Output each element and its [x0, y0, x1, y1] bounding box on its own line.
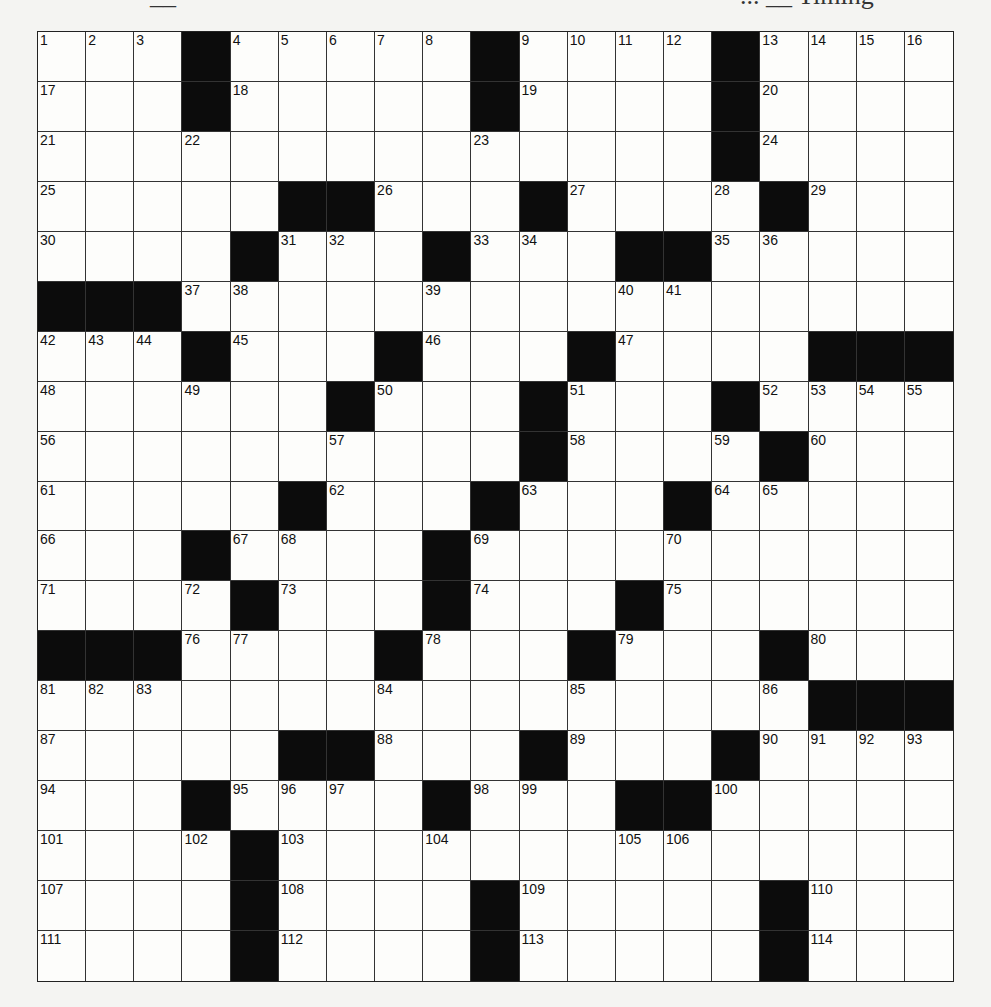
grid-cell[interactable]: [471, 282, 519, 332]
grid-cell[interactable]: [857, 781, 905, 831]
grid-cell[interactable]: [423, 82, 471, 132]
grid-cell[interactable]: [375, 82, 423, 132]
grid-cell[interactable]: [86, 182, 134, 232]
grid-cell[interactable]: 75: [664, 581, 712, 631]
grid-cell[interactable]: [664, 681, 712, 731]
grid-cell[interactable]: 66: [38, 531, 86, 581]
grid-cell[interactable]: 4: [231, 32, 279, 82]
grid-cell[interactable]: [231, 731, 279, 781]
grid-cell[interactable]: [664, 931, 712, 981]
grid-cell[interactable]: 16: [905, 32, 953, 82]
grid-cell[interactable]: [134, 531, 182, 581]
grid-cell[interactable]: [86, 931, 134, 981]
grid-cell[interactable]: 23: [471, 132, 519, 182]
grid-cell[interactable]: [760, 332, 808, 382]
grid-cell[interactable]: 80: [809, 631, 857, 681]
grid-cell[interactable]: 33: [471, 232, 519, 282]
grid-cell[interactable]: 63: [520, 482, 568, 532]
grid-cell[interactable]: [423, 432, 471, 482]
grid-cell[interactable]: [616, 82, 664, 132]
grid-cell[interactable]: [520, 831, 568, 881]
grid-cell[interactable]: 110: [809, 881, 857, 931]
grid-cell[interactable]: 53: [809, 382, 857, 432]
grid-cell[interactable]: 62: [327, 482, 375, 532]
grid-cell[interactable]: 31: [279, 232, 327, 282]
grid-cell[interactable]: 87: [38, 731, 86, 781]
grid-cell[interactable]: [182, 482, 230, 532]
grid-cell[interactable]: 85: [568, 681, 616, 731]
grid-cell[interactable]: [616, 432, 664, 482]
grid-cell[interactable]: [86, 82, 134, 132]
grid-cell[interactable]: 99: [520, 781, 568, 831]
grid-cell[interactable]: [712, 332, 760, 382]
grid-cell[interactable]: [905, 581, 953, 631]
grid-cell[interactable]: [86, 482, 134, 532]
grid-cell[interactable]: [712, 581, 760, 631]
grid-cell[interactable]: 13: [760, 32, 808, 82]
grid-cell[interactable]: [182, 432, 230, 482]
grid-cell[interactable]: 19: [520, 82, 568, 132]
grid-cell[interactable]: 17: [38, 82, 86, 132]
grid-cell[interactable]: [905, 931, 953, 981]
grid-cell[interactable]: [905, 232, 953, 282]
grid-cell[interactable]: 18: [231, 82, 279, 132]
grid-cell[interactable]: 54: [857, 382, 905, 432]
grid-cell[interactable]: [760, 282, 808, 332]
grid-cell[interactable]: [279, 432, 327, 482]
grid-cell[interactable]: [712, 881, 760, 931]
grid-cell[interactable]: [809, 781, 857, 831]
grid-cell[interactable]: [231, 382, 279, 432]
grid-cell[interactable]: 45: [231, 332, 279, 382]
grid-cell[interactable]: 72: [182, 581, 230, 631]
grid-cell[interactable]: 57: [327, 432, 375, 482]
grid-cell[interactable]: [905, 482, 953, 532]
grid-cell[interactable]: [134, 132, 182, 182]
grid-cell[interactable]: 7: [375, 32, 423, 82]
grid-cell[interactable]: 15: [857, 32, 905, 82]
grid-cell[interactable]: 56: [38, 432, 86, 482]
grid-cell[interactable]: [375, 781, 423, 831]
grid-cell[interactable]: [279, 631, 327, 681]
grid-cell[interactable]: 46: [423, 332, 471, 382]
grid-cell[interactable]: [857, 881, 905, 931]
grid-cell[interactable]: 50: [375, 382, 423, 432]
grid-cell[interactable]: [86, 531, 134, 581]
grid-cell[interactable]: 24: [760, 132, 808, 182]
grid-cell[interactable]: 70: [664, 531, 712, 581]
grid-cell[interactable]: 34: [520, 232, 568, 282]
grid-cell[interactable]: [375, 432, 423, 482]
grid-cell[interactable]: [712, 282, 760, 332]
grid-cell[interactable]: [857, 482, 905, 532]
grid-cell[interactable]: [905, 82, 953, 132]
grid-cell[interactable]: [712, 681, 760, 731]
grid-cell[interactable]: 106: [664, 831, 712, 881]
grid-cell[interactable]: 76: [182, 631, 230, 681]
grid-cell[interactable]: [568, 232, 616, 282]
grid-cell[interactable]: [86, 881, 134, 931]
grid-cell[interactable]: [182, 182, 230, 232]
grid-cell[interactable]: 89: [568, 731, 616, 781]
grid-cell[interactable]: [616, 182, 664, 232]
grid-cell[interactable]: [905, 631, 953, 681]
grid-cell[interactable]: [616, 681, 664, 731]
grid-cell[interactable]: [375, 132, 423, 182]
grid-cell[interactable]: [471, 631, 519, 681]
grid-cell[interactable]: 79: [616, 631, 664, 681]
grid-cell[interactable]: [520, 531, 568, 581]
grid-cell[interactable]: 92: [857, 731, 905, 781]
grid-cell[interactable]: [375, 531, 423, 581]
grid-cell[interactable]: [182, 731, 230, 781]
grid-cell[interactable]: [375, 482, 423, 532]
grid-cell[interactable]: [664, 132, 712, 182]
grid-cell[interactable]: [568, 482, 616, 532]
grid-cell[interactable]: [471, 182, 519, 232]
grid-cell[interactable]: 25: [38, 182, 86, 232]
grid-cell[interactable]: 5: [279, 32, 327, 82]
grid-cell[interactable]: 58: [568, 432, 616, 482]
grid-cell[interactable]: 35: [712, 232, 760, 282]
grid-cell[interactable]: [423, 382, 471, 432]
grid-cell[interactable]: 60: [809, 432, 857, 482]
grid-cell[interactable]: [231, 681, 279, 731]
grid-cell[interactable]: 26: [375, 182, 423, 232]
grid-cell[interactable]: 65: [760, 482, 808, 532]
